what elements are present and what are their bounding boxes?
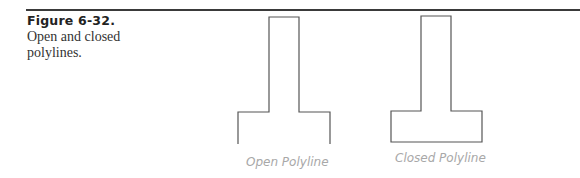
closed-polyline-label: Closed Polyline: [395, 151, 486, 165]
open-polyline-label: Open Polyline: [246, 155, 329, 169]
polyline-drawings: [0, 0, 580, 178]
open-polyline-shape: [238, 17, 330, 144]
closed-polyline-shape: [391, 16, 482, 142]
